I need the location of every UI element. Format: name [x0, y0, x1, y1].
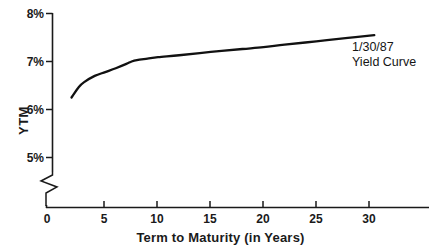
y-tick-label-5: 5%	[14, 151, 44, 165]
x-axis-ticks	[104, 201, 369, 208]
x-tick-label-25: 25	[303, 212, 329, 226]
x-tick-label-5: 5	[94, 212, 114, 226]
axis-break-zigzag	[41, 172, 57, 206]
curve-label-date: 1/30/87	[352, 40, 394, 54]
y-tick-label-7: 7%	[14, 55, 44, 69]
y-axis-title: YTM	[16, 106, 31, 135]
y-axis-ticks	[46, 14, 53, 158]
x-axis-title: Term to Maturity (in Years)	[128, 230, 313, 245]
x-tick-label-30: 30	[356, 212, 382, 226]
yield-curve-line	[71, 35, 374, 97]
x-tick-label-15: 15	[197, 212, 223, 226]
x-tick-label-20: 20	[250, 212, 276, 226]
yield-curve-chart: 8% 7% 6% 5% 0 5 10 15 20 25 30 YTM Term …	[0, 0, 431, 251]
x-tick-label-0: 0	[37, 212, 57, 226]
y-tick-label-8: 8%	[14, 7, 44, 21]
curve-label-name: Yield Curve	[352, 55, 416, 69]
x-tick-label-10: 10	[144, 212, 170, 226]
